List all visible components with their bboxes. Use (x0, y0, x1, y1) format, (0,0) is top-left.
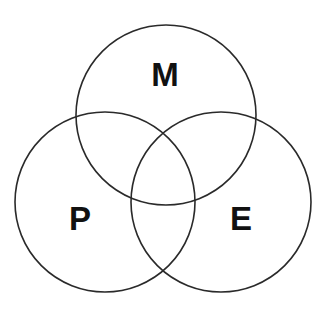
venn-diagram: M P E (0, 0, 326, 309)
label-m: M (151, 56, 179, 93)
circle-m (76, 25, 256, 205)
circle-p (15, 112, 195, 292)
label-e: E (230, 200, 252, 237)
label-p: P (69, 200, 91, 237)
circle-e (131, 112, 311, 292)
